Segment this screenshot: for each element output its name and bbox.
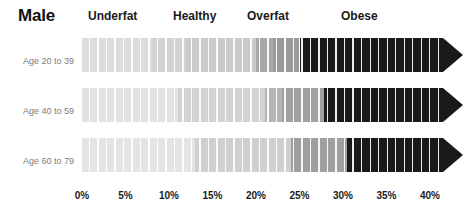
- bar-segment: [82, 88, 178, 122]
- category-label-overfat: Overfat: [247, 9, 289, 23]
- bar-segment: [291, 138, 348, 172]
- row-label-0: Age 20 to 39: [4, 56, 74, 66]
- axis-tick-label: 15%: [193, 190, 233, 201]
- bar-segment: [256, 38, 273, 72]
- bar-arrow-head: [443, 138, 463, 172]
- bar-row: [82, 138, 460, 172]
- axis-tick-label: 30%: [323, 190, 363, 201]
- category-label-underfat: Underfat: [88, 9, 137, 23]
- page-title: Male: [18, 6, 55, 26]
- bar-segment: [282, 88, 324, 122]
- bar-body: [82, 138, 443, 172]
- bar-segment: [82, 38, 152, 72]
- body-fat-chart: Male UnderfatHealthyOverfatObese Age 20 …: [0, 0, 465, 214]
- bar-body: [82, 38, 443, 72]
- axis-tick-label: 10%: [149, 190, 189, 201]
- category-label-obese: Obese: [341, 9, 378, 23]
- bar-body: [82, 88, 443, 122]
- row-label-2: Age 60 to 79: [4, 156, 74, 166]
- bar-segment: [324, 88, 443, 122]
- bar-row: [82, 38, 460, 72]
- bar-arrow-head: [443, 38, 463, 72]
- axis-tick-label: 0%: [62, 190, 102, 201]
- bar-segment: [178, 88, 265, 122]
- axis-tick-label: 5%: [106, 190, 146, 201]
- bar-segment: [273, 38, 299, 72]
- bar-arrow-head: [443, 88, 463, 122]
- category-label-healthy: Healthy: [173, 9, 216, 23]
- axis-tick-label: 40%: [410, 190, 450, 201]
- bar-row: [82, 88, 460, 122]
- bar-segment: [82, 138, 195, 172]
- bar-segment: [186, 38, 256, 72]
- bar-segment: [347, 138, 443, 172]
- row-label-1: Age 40 to 59: [4, 106, 74, 116]
- bar-segment: [265, 88, 282, 122]
- bar-segment: [152, 38, 187, 72]
- bar-segment: [195, 138, 291, 172]
- axis-tick-label: 35%: [367, 190, 407, 201]
- axis-tick-label: 20%: [236, 190, 276, 201]
- bar-segment: [300, 38, 444, 72]
- axis-tick-label: 25%: [280, 190, 320, 201]
